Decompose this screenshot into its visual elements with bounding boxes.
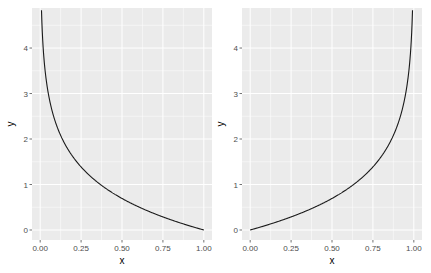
x-axis-title: x: [120, 255, 125, 266]
y-tick-label: 2: [24, 135, 29, 144]
x-tick-label: 0.75: [365, 244, 381, 253]
y-tick-label: 0: [234, 226, 239, 235]
y-axis-title: y: [215, 122, 226, 127]
left-plot-svg: 0.000.250.500.751.0001234xy: [0, 0, 215, 273]
x-tick-label: 1.00: [406, 244, 422, 253]
x-tick-label: 0.00: [242, 244, 258, 253]
y-axis-title: y: [5, 122, 16, 127]
right-plot-svg: 0.000.250.500.751.0001234xy: [210, 0, 431, 273]
y-tick-label: 0: [24, 226, 29, 235]
x-tick-label: 0.50: [324, 244, 340, 253]
x-tick-label: 0.00: [32, 244, 48, 253]
x-tick-label: 0.75: [155, 244, 171, 253]
x-axis-title: x: [330, 255, 335, 266]
x-tick-label: 0.25: [283, 244, 299, 253]
y-tick-label: 3: [234, 90, 239, 99]
y-tick-label: 4: [234, 44, 239, 53]
y-tick-label: 2: [234, 135, 239, 144]
y-tick-label: 1: [24, 181, 29, 190]
right-plot: 0.000.250.500.751.0001234xy: [210, 0, 425, 273]
x-tick-label: 0.25: [73, 244, 89, 253]
y-tick-label: 4: [24, 44, 29, 53]
y-tick-label: 1: [234, 181, 239, 190]
x-tick-label: 0.50: [114, 244, 130, 253]
left-plot: 0.000.250.500.751.0001234xy: [0, 0, 215, 273]
y-tick-label: 3: [24, 90, 29, 99]
